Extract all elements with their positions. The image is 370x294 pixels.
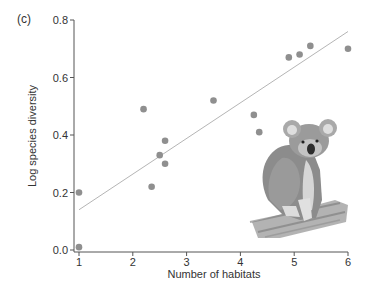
- data-point: [251, 112, 258, 119]
- data-point: [307, 43, 314, 50]
- x-ticks: 123456: [76, 252, 351, 268]
- data-point: [156, 152, 163, 159]
- data-point: [162, 137, 169, 144]
- x-tick-label: 4: [237, 256, 243, 268]
- data-point: [345, 45, 352, 52]
- data-point: [296, 51, 303, 58]
- x-tick-label: 1: [76, 256, 82, 268]
- data-point: [148, 183, 155, 190]
- y-tick-label: 0.6: [53, 72, 68, 84]
- data-point: [76, 189, 83, 196]
- y-tick-label: 0.4: [53, 129, 68, 141]
- data-point: [286, 54, 293, 61]
- x-axis-title: Number of habitats: [168, 268, 261, 280]
- data-point: [256, 129, 263, 136]
- scatter-chart: 0.00.20.40.60.8 123456 Number of habitat…: [0, 0, 370, 294]
- y-tick-label: 0.8: [53, 14, 68, 26]
- data-point: [76, 244, 83, 251]
- data-point: [140, 106, 147, 113]
- y-ticks: 0.00.20.40.60.8: [53, 14, 74, 256]
- data-point: [210, 97, 217, 104]
- x-tick-label: 5: [291, 256, 297, 268]
- x-tick-label: 6: [345, 256, 351, 268]
- data-point: [162, 160, 169, 167]
- x-tick-label: 3: [184, 256, 190, 268]
- y-tick-label: 0.2: [53, 187, 68, 199]
- y-tick-label: 0.0: [53, 244, 68, 256]
- x-tick-label: 2: [130, 256, 136, 268]
- y-axis-title: Log species diversity: [26, 84, 38, 187]
- koala-illustration: [250, 119, 348, 238]
